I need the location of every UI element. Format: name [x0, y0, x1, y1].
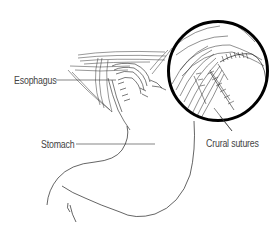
stomach-drawing [47, 121, 195, 222]
magnifier-ring [169, 22, 268, 121]
esophagus-drawing [108, 63, 166, 130]
stomach-label: Stomach [41, 139, 75, 150]
esophagus-label: Esophagus [14, 75, 56, 86]
crural-sutures-label: Crural sutures [206, 138, 259, 149]
hiatal-hernia-illustration [0, 0, 279, 233]
